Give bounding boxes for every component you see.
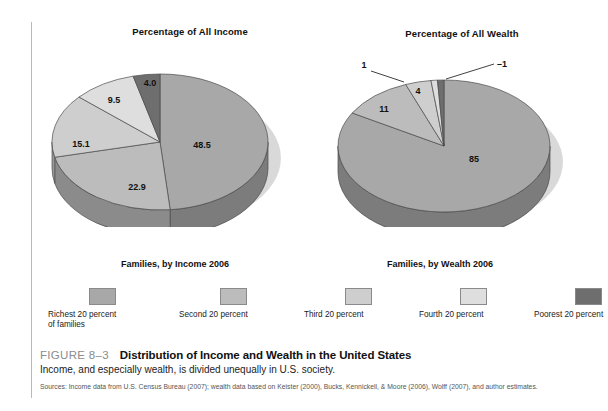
- left-margin-rule: [31, 22, 32, 398]
- legend-swatch-5: [575, 288, 602, 305]
- pie-slice-label: 11: [379, 104, 389, 114]
- pie-slice-label: 48.5: [193, 140, 211, 150]
- legend-item-1: Richest 20 percent of families: [48, 288, 156, 329]
- figure-sources: Sources: Income data from U.S. Census Bu…: [40, 382, 568, 392]
- pie-slice-label: 1: [361, 60, 366, 70]
- figure-number: FIGURE 8–3: [40, 349, 109, 361]
- legend-item-3: Third 20 percent: [304, 288, 412, 320]
- legend-label-5: Poorest 20 percent: [534, 310, 608, 320]
- legend-item-2: Second 20 percent: [179, 288, 287, 320]
- legend-heading-income: Families, by Income 2006: [85, 259, 265, 270]
- figure-subtitle: Income, and especially wealth, is divide…: [40, 364, 335, 375]
- income-pie-svg: 48.522.915.19.54.0: [34, 42, 302, 227]
- pie-slice-label: 22.9: [128, 182, 146, 192]
- legend-swatch-3: [345, 288, 372, 305]
- legend-swatch-1: [89, 288, 116, 305]
- legend-heading-wealth: Families, by Wealth 2006: [350, 259, 530, 270]
- pie-slice-label: 85: [469, 154, 479, 164]
- income-pie-chart: 48.522.915.19.54.0: [34, 42, 302, 227]
- legend-label-2: Second 20 percent: [179, 310, 287, 320]
- figure-caption-line: FIGURE 8–3Distribution of Income and Wea…: [40, 345, 411, 363]
- legend: Richest 20 percent of familiesSecond 20 …: [34, 288, 566, 334]
- wealth-chart-title: Percentage of All Wealth: [352, 28, 572, 39]
- legend-item-5: Poorest 20 percent: [534, 288, 608, 320]
- figure-title: Distribution of Income and Wealth in the…: [120, 349, 412, 361]
- pie-slice-label: 15.1: [72, 139, 90, 149]
- pie-slice-label: –1: [497, 59, 507, 69]
- legend-label-4: Fourth 20 percent: [419, 310, 527, 320]
- legend-label-1: Richest 20 percent of families: [48, 310, 156, 329]
- legend-swatch-4: [460, 288, 487, 305]
- legend-label-3: Third 20 percent: [304, 310, 412, 320]
- income-chart-title: Percentage of All Income: [80, 26, 300, 37]
- pie-slice-label: 4: [415, 86, 420, 96]
- legend-item-4: Fourth 20 percent: [419, 288, 527, 320]
- wealth-pie-svg: 851141–1: [326, 44, 576, 227]
- pie-slice-label: 9.5: [108, 95, 121, 105]
- legend-swatch-2: [220, 288, 247, 305]
- wealth-pie-chart: 851141–1: [326, 44, 576, 227]
- pie-slice-label: 4.0: [144, 78, 157, 88]
